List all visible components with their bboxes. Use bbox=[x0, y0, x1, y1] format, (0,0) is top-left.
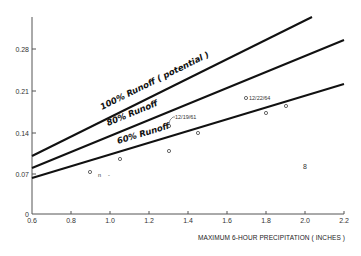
data-point bbox=[244, 96, 247, 99]
x-tick-label: 1.0 bbox=[105, 217, 115, 224]
odd-marker-n: n bbox=[98, 172, 101, 178]
annotation-12-22-64: 12/22/64 bbox=[249, 95, 270, 101]
data-point bbox=[167, 149, 170, 152]
odd-marker-dash: - bbox=[108, 172, 110, 178]
x-tick-label: 1.4 bbox=[183, 217, 193, 224]
x-tick-label: 1.6 bbox=[222, 217, 232, 224]
annotation-12-19-61: 12/19/61 bbox=[175, 114, 196, 120]
data-point bbox=[196, 131, 199, 134]
data-point bbox=[264, 111, 267, 114]
y-tick-label: 0.28 bbox=[15, 46, 29, 53]
y-tick-label: 0.07 bbox=[15, 171, 29, 178]
data-point bbox=[284, 104, 287, 107]
x-tick-label: 2.0 bbox=[300, 217, 310, 224]
y-tick-label: 0.21 bbox=[15, 88, 29, 95]
x-tick-label: 2.2 bbox=[339, 217, 349, 224]
y-ticks: 0.28 0.21 0.14 0.07 0 bbox=[15, 46, 36, 218]
runoff-chart: 0.28 0.21 0.14 0.07 0 0.6 0.8 1.0 1.2 1.… bbox=[0, 0, 361, 256]
odd-marker-8: 8 bbox=[303, 163, 307, 170]
x-tick-label: 1.2 bbox=[144, 217, 154, 224]
x-ticks: 0.6 0.8 1.0 1.2 1.4 1.6 1.8 2.0 2.2 bbox=[27, 211, 349, 224]
data-point bbox=[88, 170, 91, 173]
x-tick-label: 0.8 bbox=[66, 217, 76, 224]
y-tick-label: 0.14 bbox=[15, 130, 29, 137]
x-axis-title: MAXIMUM 6-HOUR PRECIPITATION ( INCHES ) bbox=[198, 234, 345, 242]
label-60-runoff: 60% Runoff bbox=[116, 120, 172, 146]
x-tick-label: 1.8 bbox=[261, 217, 271, 224]
line-60-runoff bbox=[32, 84, 344, 178]
data-point bbox=[118, 157, 121, 160]
x-tick-label: 0.6 bbox=[27, 217, 37, 224]
